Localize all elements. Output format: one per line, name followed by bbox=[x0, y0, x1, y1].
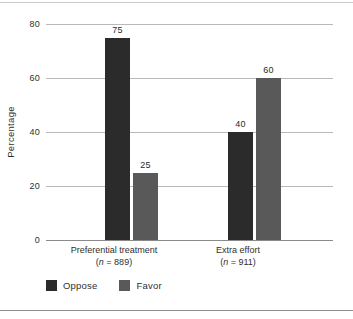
gridline-40: 40 bbox=[46, 132, 333, 133]
category-sample-size: (n = 911) bbox=[178, 256, 298, 268]
y-tick-label-40: 40 bbox=[30, 127, 40, 137]
y-tick-label-80: 80 bbox=[30, 19, 40, 29]
category-sample-size: (n = 889) bbox=[44, 256, 184, 268]
legend-item-oppose[interactable]: Oppose bbox=[46, 280, 97, 291]
bar-chart-figure: Percentage 80 60 40 20 0 75 25 40 60 bbox=[0, 0, 353, 319]
category-label-preferential-treatment: Preferential treatment (n = 889) bbox=[44, 244, 184, 268]
legend-item-favor[interactable]: Favor bbox=[119, 280, 161, 291]
category-name: Preferential treatment bbox=[71, 245, 158, 255]
legend-swatch-icon bbox=[119, 280, 130, 291]
legend-label: Oppose bbox=[63, 280, 97, 291]
category-name: Extra effort bbox=[216, 245, 260, 255]
bar-preferential-treatment-favor[interactable]: 25 bbox=[133, 173, 158, 241]
bar-value-label: 75 bbox=[112, 25, 122, 35]
bar-extra-effort-oppose[interactable]: 40 bbox=[228, 132, 253, 240]
y-tick-label-0: 0 bbox=[35, 235, 40, 245]
y-tick-label-20: 20 bbox=[30, 181, 40, 191]
gridline-20: 20 bbox=[46, 186, 333, 187]
sample-size-value: = 889) bbox=[104, 257, 132, 267]
y-tick-label-60: 60 bbox=[30, 73, 40, 83]
legend-swatch-icon bbox=[46, 280, 57, 291]
gridline-80: 80 bbox=[46, 24, 333, 25]
category-label-extra-effort: Extra effort (n = 911) bbox=[178, 244, 298, 268]
bar-value-label: 40 bbox=[235, 119, 245, 129]
gridline-60: 60 bbox=[46, 78, 333, 79]
top-divider-rule bbox=[0, 2, 353, 3]
bar-extra-effort-favor[interactable]: 60 bbox=[256, 78, 281, 240]
plot-area: 80 60 40 20 0 75 25 40 60 bbox=[46, 24, 333, 240]
legend-label: Favor bbox=[136, 280, 161, 291]
bar-preferential-treatment-oppose[interactable]: 75 bbox=[105, 38, 130, 241]
sample-size-value: = 911) bbox=[228, 257, 256, 267]
y-axis-title: Percentage bbox=[5, 106, 16, 158]
bottom-divider-rule bbox=[0, 310, 353, 311]
chart-legend: Oppose Favor bbox=[46, 280, 162, 291]
bar-value-label: 60 bbox=[263, 65, 273, 75]
bar-value-label: 25 bbox=[140, 160, 150, 170]
x-axis-baseline: 0 bbox=[46, 240, 333, 241]
